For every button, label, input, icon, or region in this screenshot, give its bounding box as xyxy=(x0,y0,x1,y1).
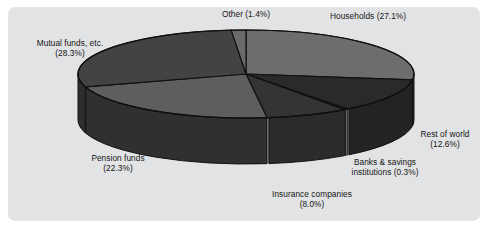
pie-label-insurance-companies-line1: Insurance companies xyxy=(250,189,374,199)
pie-label-households-line1: Households (27.1%) xyxy=(330,11,460,21)
pie-label-mutual-funds: Mutual funds, etc. (28.3%) xyxy=(6,38,134,58)
pie-label-other: Other (1.4%) xyxy=(186,9,306,19)
pie-label-insurance-companies-line2: (8.0%) xyxy=(250,199,374,209)
pie-label-mutual-funds-line2: (28.3%) xyxy=(6,48,134,58)
pie-label-other-line1: Other (1.4%) xyxy=(186,9,306,19)
pie-label-banks-savings-line1: Banks & savings xyxy=(328,157,442,167)
pie-label-pension-funds-line1: Pension funds xyxy=(62,153,174,163)
pie-label-pension-funds-line2: (22.3%) xyxy=(62,163,174,173)
pie-label-rest-of-world-line1: Rest of world xyxy=(404,129,486,139)
pie-chart-graphic xyxy=(0,0,488,228)
pie-label-insurance-companies: Insurance companies (8.0%) xyxy=(250,189,374,209)
pie-label-households: Households (27.1%) xyxy=(330,11,460,21)
pie-label-rest-of-world: Rest of world (12.6%) xyxy=(404,129,486,149)
pie-label-banks-savings: Banks & savings institutions (0.3%) xyxy=(328,157,442,177)
pie-label-rest-of-world-line2: (12.6%) xyxy=(404,139,486,149)
pie-label-banks-savings-line2: institutions (0.3%) xyxy=(328,167,442,177)
pie-chart: Other (1.4%) Households (27.1%) Mutual f… xyxy=(0,0,488,228)
pie-label-pension-funds: Pension funds (22.3%) xyxy=(62,153,174,173)
pie-label-mutual-funds-line1: Mutual funds, etc. xyxy=(6,38,134,48)
chart-figure: Other (1.4%) Households (27.1%) Mutual f… xyxy=(0,0,488,228)
